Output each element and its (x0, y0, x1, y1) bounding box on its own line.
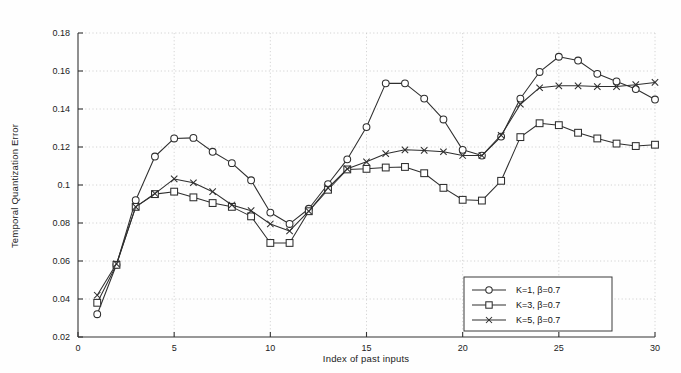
x-tick-label: 15 (361, 343, 371, 353)
marker-square (479, 197, 486, 204)
marker-square (652, 141, 659, 148)
marker-square (459, 196, 466, 203)
marker-circle (286, 221, 293, 228)
marker-circle (498, 133, 505, 140)
figure-container: 0.020.040.060.080.10.120.140.160.1805101… (0, 0, 681, 373)
marker-circle (517, 95, 524, 102)
y-tick-label: 0.06 (52, 256, 70, 266)
marker-circle (363, 124, 370, 131)
marker-circle (132, 197, 139, 204)
x-tick-label: 25 (554, 343, 564, 353)
marker-circle (190, 134, 197, 141)
marker-x (286, 228, 292, 234)
marker-circle (228, 160, 235, 167)
marker-circle (421, 95, 428, 102)
marker-square (555, 122, 562, 129)
legend-label: K=5, β=0.7 (516, 315, 560, 325)
marker-square (94, 299, 101, 306)
marker-square (363, 165, 370, 172)
y-tick-label: 0.18 (52, 28, 70, 38)
marker-circle (555, 53, 562, 60)
marker-circle (536, 69, 543, 76)
marker-circle (402, 80, 409, 87)
marker-circle (440, 116, 447, 123)
marker-square (171, 188, 178, 195)
marker-circle (248, 177, 255, 184)
marker-square (190, 194, 197, 201)
marker-square (613, 140, 620, 147)
x-tick-label: 10 (265, 343, 275, 353)
x-tick-label: 30 (650, 343, 660, 353)
marker-circle (652, 96, 659, 103)
y-tick-label: 0.1 (57, 180, 70, 190)
y-tick-label: 0.12 (52, 142, 70, 152)
marker-square (440, 184, 447, 191)
y-tick-label: 0.04 (52, 294, 70, 304)
marker-square (594, 135, 601, 142)
marker-square (498, 177, 505, 184)
series-line (97, 82, 655, 295)
marker-circle (382, 80, 389, 87)
marker-x (94, 292, 100, 298)
y-axis-label: Temporal Quantization Error (9, 124, 20, 248)
series-line (97, 57, 655, 314)
legend-label: K=1, β=0.7 (516, 285, 560, 295)
marker-square (421, 170, 428, 177)
marker-circle (486, 287, 492, 293)
marker-square (486, 302, 492, 308)
y-tick-label: 0.14 (52, 104, 70, 114)
marker-circle (152, 153, 159, 160)
marker-circle (594, 70, 601, 77)
marker-square (632, 143, 639, 150)
marker-x (267, 221, 273, 227)
marker-circle (171, 135, 178, 142)
marker-square (267, 240, 274, 247)
marker-square (402, 164, 409, 171)
data-series (94, 79, 658, 298)
line-chart: 0.020.040.060.080.10.120.140.160.1805101… (0, 0, 681, 373)
y-tick-label: 0.16 (52, 66, 70, 76)
series-line (97, 123, 655, 303)
marker-circle (459, 146, 466, 153)
x-axis-label: Index of past inputs (323, 353, 409, 364)
marker-circle (94, 311, 101, 318)
marker-square (382, 164, 389, 171)
marker-square (286, 240, 293, 247)
x-tick-label: 0 (75, 343, 80, 353)
marker-square (575, 129, 582, 136)
marker-square (517, 134, 524, 141)
y-tick-label: 0.02 (52, 332, 70, 342)
y-tick-label: 0.08 (52, 218, 70, 228)
marker-x (209, 188, 215, 194)
chart-legend: K=1, β=0.7K=3, β=0.7K=5, β=0.7 (464, 277, 612, 331)
x-tick-label: 20 (458, 343, 468, 353)
x-tick-label: 5 (172, 343, 177, 353)
marker-circle (575, 57, 582, 64)
marker-circle (344, 156, 351, 163)
marker-circle (209, 148, 216, 155)
marker-square (248, 213, 255, 220)
marker-square (536, 120, 543, 127)
marker-square (209, 200, 216, 207)
marker-circle (267, 209, 274, 216)
legend-label: K=3, β=0.7 (516, 300, 560, 310)
